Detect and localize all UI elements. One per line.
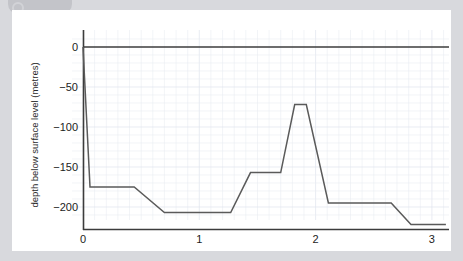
minor-gridlines-vertical — [83, 30, 444, 220]
xtick-label-3: 3 — [429, 233, 435, 245]
chart-plot-area: 0 −50 −100 −150 −200 0 1 2 3 depth below… — [12, 10, 451, 251]
y-axis-title: depth below surface level (metres) — [29, 62, 40, 207]
ytick-label-minus50: −50 — [59, 81, 78, 93]
ytick-label-0: 0 — [72, 41, 78, 53]
xtick-label-1: 1 — [196, 233, 202, 245]
ytick-label-minus100: −100 — [53, 121, 78, 133]
chart-card: 0 −50 −100 −150 −200 0 1 2 3 depth below… — [12, 10, 451, 251]
ytick-label-minus200: −200 — [53, 201, 78, 213]
xtick-label-2: 2 — [313, 233, 319, 245]
ytick-label-minus150: −150 — [53, 161, 78, 173]
x-axis-tick-labels: 0 1 2 3 — [80, 233, 435, 245]
depth-time-line-chart: 0 −50 −100 −150 −200 0 1 2 3 depth below… — [12, 10, 451, 251]
xtick-label-0: 0 — [80, 233, 86, 245]
major-gridlines-horizontal — [72, 87, 449, 207]
y-axis-tick-labels: 0 −50 −100 −150 −200 — [53, 41, 78, 213]
x-axis-title: Exploration time of mini-sub (hours) — [187, 249, 337, 251]
depth-profile-line — [83, 47, 446, 225]
